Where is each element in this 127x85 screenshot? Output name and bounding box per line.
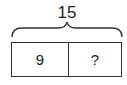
- part-known-label: 9: [36, 51, 44, 68]
- part-unknown-label: ?: [91, 51, 99, 68]
- tape-bar: 9 ?: [11, 42, 122, 77]
- part-unknown: ?: [69, 43, 121, 76]
- brace-icon: [0, 0, 127, 45]
- part-known: 9: [12, 43, 69, 76]
